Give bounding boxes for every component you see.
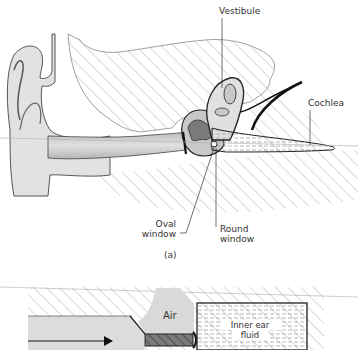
label-oval-window-2: window [132, 229, 176, 239]
label-inner-ear-fluid-1: Inner ear [220, 320, 280, 330]
semicircular-canal [224, 84, 236, 104]
label-air: Air [163, 311, 177, 321]
panel-a [0, 18, 358, 233]
label-inner-ear-fluid-2: fluid [232, 330, 268, 340]
label-oval-window-1: Oval [132, 219, 176, 229]
round-window [211, 141, 217, 147]
label-round-window-1: Round [220, 224, 248, 234]
panel-a-caption: (a) [164, 250, 177, 260]
label-cochlea: Cochlea [308, 98, 344, 108]
label-vestibule: Vestibule [219, 6, 260, 16]
ear-anatomy-diagram [0, 0, 358, 350]
temporal-bone-region [68, 34, 274, 132]
label-round-window-2: window [220, 234, 254, 244]
ossicle-piston [145, 334, 193, 346]
ear-canal [48, 132, 185, 159]
lower-bone-region [95, 150, 358, 212]
panel-b [0, 287, 358, 350]
canal-section [28, 316, 144, 350]
